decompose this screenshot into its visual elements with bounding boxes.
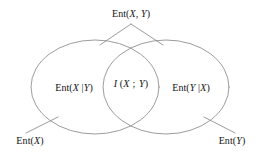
entropy-x-close: ) <box>40 135 43 146</box>
entropy-y-fn: Ent( <box>219 135 237 146</box>
conditional-y-given-x-label: Ent(Y |X) <box>154 82 228 93</box>
leader-line-joint-left <box>100 24 131 45</box>
entropy-y-label: Ent(Y) <box>206 135 258 146</box>
cond-yx-fn: Ent( <box>172 82 190 93</box>
mi-close: ) <box>145 78 148 89</box>
joint-entropy-label: Ent(X, Y) <box>0 8 262 19</box>
mi-sep: ; <box>129 78 139 89</box>
cond-xy-fn: Ent( <box>55 82 73 93</box>
entropy-x-fn: Ent( <box>16 135 34 146</box>
cond-yx-close: ) <box>206 82 209 93</box>
conditional-x-given-y-label: Ent(X |Y) <box>38 82 110 93</box>
cond-xy-close: ) <box>89 82 92 93</box>
joint-entropy-close: ) <box>147 8 150 19</box>
entropy-x-label: Ent(X) <box>4 135 56 146</box>
mutual-information-label: I (X ; Y) <box>106 78 156 89</box>
entropy-y-close: ) <box>242 135 245 146</box>
leader-line-entropy-y <box>204 117 235 133</box>
joint-entropy-fn: Ent( <box>112 8 130 19</box>
entropy-venn-figure: Ent(X, Y) Ent(X |Y) I (X ; Y) Ent(Y |X) … <box>0 0 262 157</box>
leader-line-entropy-x <box>26 117 58 133</box>
